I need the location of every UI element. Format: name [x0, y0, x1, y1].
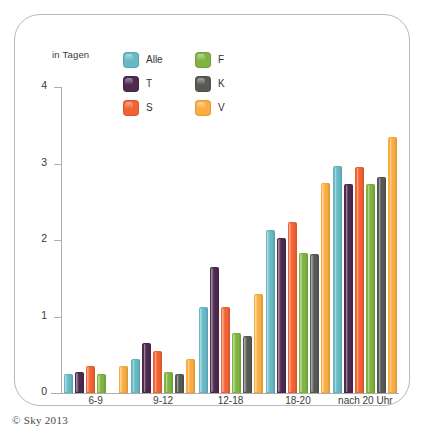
- x-tick-label: 9-12: [153, 395, 173, 406]
- y-tick: 2: [54, 240, 62, 241]
- bar-t-0: [75, 372, 84, 393]
- bar-alle-3: [266, 230, 275, 393]
- bar-k-3: [310, 254, 319, 393]
- bar-v-4: [388, 137, 397, 393]
- y-tick: 0: [54, 393, 62, 394]
- legend-label: F: [218, 55, 224, 65]
- y-tick: 3: [54, 164, 62, 165]
- x-tick-label: 12-18: [218, 395, 244, 406]
- plot-area: 01234 6-99-1212-1818-20nach 20 Uhr: [61, 87, 399, 393]
- y-tick: 4: [54, 87, 62, 88]
- bar-s-3: [288, 222, 297, 393]
- bar-k-4: [377, 177, 386, 393]
- legend-item-f: F: [195, 52, 267, 68]
- bar-alle-2: [199, 307, 208, 393]
- color-swatch-icon: [123, 52, 139, 68]
- bar-f-2: [232, 333, 241, 393]
- bar-s-1: [153, 351, 162, 393]
- chart-card: in Tagen AlleFTKSV 01234 6-99-1212-1818-…: [14, 14, 410, 406]
- bar-t-4: [344, 184, 353, 393]
- bar-group: 6-9: [62, 87, 129, 393]
- x-tick-label: 6-9: [88, 395, 102, 406]
- bar-v-3: [321, 183, 330, 393]
- bar-k-2: [243, 336, 252, 393]
- x-tick-label: nach 20 Uhr: [338, 395, 392, 406]
- bar-t-3: [277, 238, 286, 393]
- bar-group: 18-20: [264, 87, 331, 393]
- bar-v-2: [254, 294, 263, 393]
- bar-group: nach 20 Uhr: [332, 87, 399, 393]
- bar-s-0: [86, 366, 95, 393]
- bar-f-4: [366, 184, 375, 393]
- bar-f-1: [164, 372, 173, 393]
- bar-v-0: [119, 366, 128, 393]
- bar-alle-0: [64, 374, 73, 393]
- copyright-credit: © Sky 2013: [12, 414, 68, 426]
- legend-item-alle: Alle: [123, 52, 195, 68]
- bar-t-1: [142, 343, 151, 393]
- y-axis-caption: in Tagen: [52, 49, 89, 60]
- bar-v-1: [186, 359, 195, 393]
- bar-s-4: [355, 167, 364, 393]
- x-tick-label: 18-20: [285, 395, 311, 406]
- bar-k-1: [175, 374, 184, 393]
- bar-f-3: [299, 253, 308, 393]
- legend-label: Alle: [146, 55, 163, 65]
- bar-t-2: [210, 267, 219, 393]
- x-axis-line: [51, 393, 399, 394]
- bar-group: 12-18: [197, 87, 264, 393]
- y-tick-label: 0: [41, 386, 47, 397]
- y-tick-label: 2: [41, 233, 47, 244]
- bar-alle-1: [131, 359, 140, 393]
- y-tick: 1: [54, 317, 62, 318]
- bar-group: 9-12: [129, 87, 196, 393]
- bar-f-0: [97, 374, 106, 393]
- color-swatch-icon: [195, 52, 211, 68]
- bar-groups: 6-99-1212-1818-20nach 20 Uhr: [62, 87, 399, 393]
- y-tick-label: 3: [41, 157, 47, 168]
- y-tick-label: 4: [41, 80, 47, 91]
- bar-s-2: [221, 307, 230, 393]
- y-tick-label: 1: [41, 310, 47, 321]
- bar-alle-4: [333, 166, 342, 393]
